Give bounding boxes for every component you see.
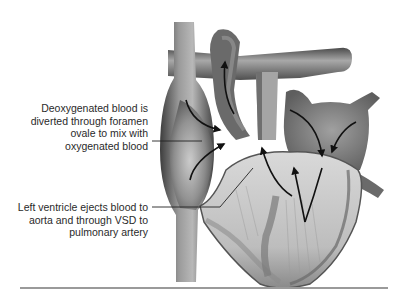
label-foramen-ovale: Deoxygenated blood is diverted through f… — [0, 102, 148, 152]
aorta — [210, 29, 250, 140]
label-left-ventricle-line: pulmonary artery — [0, 226, 148, 239]
label-left-ventricle-line: Left ventricle ejects blood to — [0, 201, 148, 214]
label-left-ventricle: Left ventricle ejects blood to aorta and… — [0, 201, 148, 239]
pulmonary-trunk — [256, 72, 278, 140]
ventricles — [200, 152, 362, 288]
label-foramen-ovale-line: ovale to mix with — [0, 127, 148, 140]
bottom-divider — [20, 287, 388, 289]
label-left-ventricle-line: aorta and through VSD to — [0, 214, 148, 227]
label-foramen-ovale-line: oxygenated blood — [0, 140, 148, 153]
label-foramen-ovale-line: Deoxygenated blood is — [0, 102, 148, 115]
label-foramen-ovale-line: diverted through foramen — [0, 115, 148, 128]
